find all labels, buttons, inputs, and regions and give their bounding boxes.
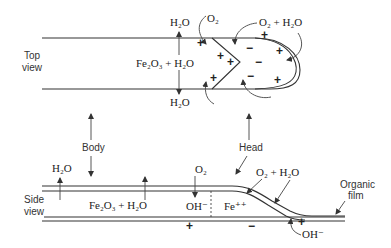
side-view-label-line2: view [24, 206, 45, 217]
charge-plus: + [210, 71, 217, 85]
charge-minus: − [248, 219, 255, 233]
side-o2-h2o-arrow-2 [275, 180, 290, 203]
charge-plus: + [186, 219, 193, 233]
organic-film-label-line1: Organic [340, 179, 375, 190]
head-label: Head [239, 142, 263, 153]
body-label-text: Body [82, 142, 105, 153]
side-oh-label: OH⁻ [186, 200, 208, 212]
side-o2-h2o-label: O₂ + H₂O [256, 166, 299, 178]
side-oh-bottom-label: OH⁻ [302, 228, 324, 240]
charge-minus: − [247, 69, 254, 83]
charge-minus: − [246, 41, 253, 55]
charge-plus: + [298, 215, 305, 229]
right-inflow-arrow [287, 33, 302, 60]
top-h2o-bottom-label: H₂O [170, 96, 190, 108]
filiform-corrosion-diagram: H₂O H₂O Fe₂O₃ + H₂O O₂ O₂ + H₂O + + + + … [0, 0, 391, 248]
side-view-label-line1: Side [24, 194, 44, 205]
organic-film-bottom [42, 191, 305, 220]
callouts: Body Head [82, 114, 263, 176]
side-view: H₂O Fe₂O₃ + H₂O O₂ OH⁻ Fe⁺⁺ O₂ + H₂O Org… [24, 162, 375, 240]
charge-plus: + [261, 28, 268, 42]
lower-left-arrow [205, 82, 214, 104]
top-o2-label: O₂ [207, 12, 219, 24]
side-o2-label: O₂ [195, 163, 207, 175]
charge-plus: + [197, 36, 204, 50]
top-center-reaction: Fe₂O₃ + H₂O [136, 57, 194, 69]
side-h2o-label: H₂O [52, 162, 72, 174]
organic-film-label-line2: film [348, 190, 364, 201]
top-view-label-line2: view [22, 62, 43, 73]
charge-plus: + [276, 44, 283, 58]
top-h2o-top-label: H₂O [170, 16, 190, 28]
top-view: H₂O H₂O Fe₂O₃ + H₂O O₂ O₂ + H₂O + + + + … [22, 12, 302, 108]
top-view-label-line1: Top [24, 50, 41, 61]
top-o2-h2o-label: O₂ + H₂O [259, 16, 302, 28]
organic-film-arrow [336, 201, 345, 214]
side-reaction-label: Fe₂O₃ + H₂O [89, 199, 147, 211]
charge-plus: + [227, 55, 234, 69]
charge-minus: − [255, 55, 262, 69]
head-pointer-arrow [236, 156, 247, 174]
charge-plus: + [217, 49, 224, 63]
charge-plus: + [274, 73, 281, 87]
side-fe-label: Fe⁺⁺ [224, 200, 247, 212]
